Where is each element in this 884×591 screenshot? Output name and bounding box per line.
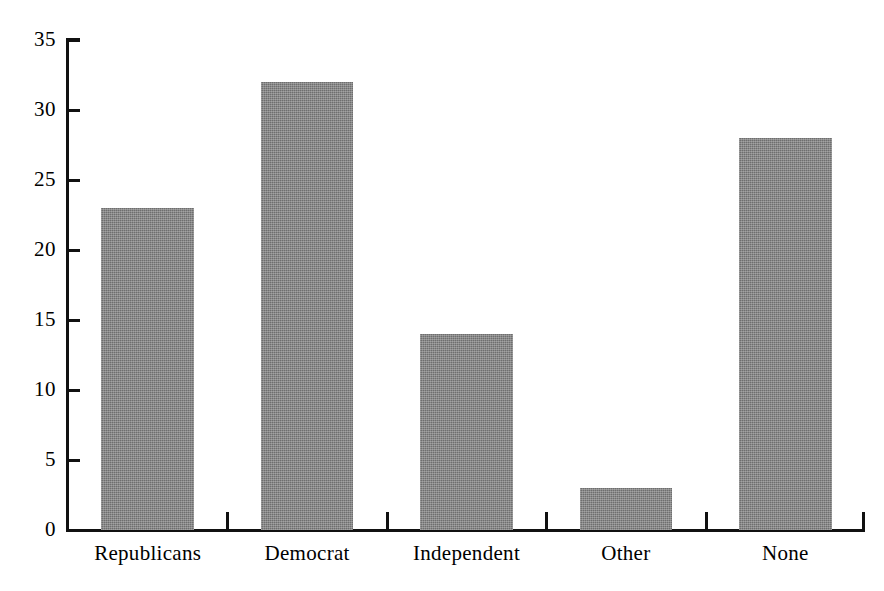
bar	[261, 82, 353, 530]
x-axis-category-label: None	[706, 541, 865, 565]
x-axis-category-label: Democrat	[227, 541, 386, 565]
y-axis-tick-label: 20	[10, 239, 56, 260]
y-axis-tick-label-text: 0	[16, 519, 56, 540]
y-axis-tick-label-text: 30	[16, 99, 56, 120]
y-axis-tick-label-text: 15	[16, 309, 56, 330]
bar	[739, 138, 831, 530]
y-axis-tick-label-text: 35	[16, 29, 56, 50]
bar-chart: 05101520253035 RepublicansDemocratIndepe…	[0, 0, 884, 591]
bar	[420, 334, 512, 530]
x-axis-category-label: Other	[546, 541, 705, 565]
x-axis-category-label: Republicans	[68, 541, 227, 565]
y-axis-tick-label: 30	[10, 99, 56, 120]
y-axis-tick-label: 15	[10, 309, 56, 330]
y-axis-tick-label: 25	[10, 169, 56, 190]
y-axis-tick-label-text: 5	[16, 449, 56, 470]
y-axis-tick-label-text: 25	[16, 169, 56, 190]
y-axis-tick-label-text: 20	[16, 239, 56, 260]
y-axis-tick-label: 10	[10, 379, 56, 400]
plot-area	[68, 40, 865, 530]
y-axis-tick-label: 35	[10, 29, 56, 50]
y-axis-tick-label: 5	[10, 449, 56, 470]
x-axis-category-label: Independent	[387, 541, 546, 565]
bar	[101, 208, 193, 530]
y-axis-tick-label-text: 10	[16, 379, 56, 400]
bar	[580, 488, 672, 530]
y-axis-tick-label: 0	[10, 519, 56, 540]
